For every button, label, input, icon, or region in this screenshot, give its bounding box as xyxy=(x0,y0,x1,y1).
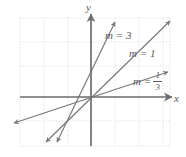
annotation-slope-1-value: 1 xyxy=(150,47,156,59)
annotation-slope-one-third-prefix: m = xyxy=(133,76,151,87)
annotation-slope-1-prefix: m = xyxy=(129,47,147,59)
x-axis-label: x xyxy=(174,93,179,104)
annotation-slope-3: m = 3 xyxy=(105,30,131,41)
y-axis-label: y xyxy=(86,2,91,13)
fraction-denominator: 3 xyxy=(154,83,161,92)
annotation-slope-one-third: m = 1 3 xyxy=(133,71,162,92)
annotation-slope-1: m = 1 xyxy=(129,48,155,59)
annotation-slope-3-value: 3 xyxy=(126,29,132,41)
annotation-slope-3-prefix: m = xyxy=(105,29,123,41)
coordinate-plane-figure: y x m = 3 m = 1 m = 1 3 xyxy=(0,0,186,157)
fraction-numerator: 1 xyxy=(154,71,161,80)
fraction-one-third: 1 3 xyxy=(153,71,162,92)
